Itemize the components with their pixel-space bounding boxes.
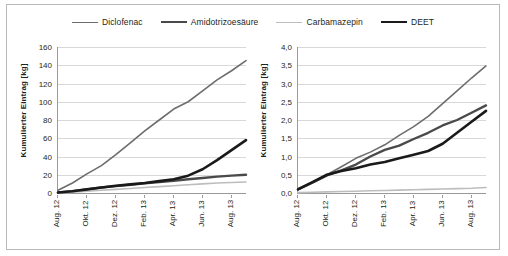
chart-panel-right: Kumulierter Eintrag [kg] 0,00,51,01,52,0… bbox=[255, 35, 495, 245]
x-tick-label-text: Aug. 12 bbox=[293, 200, 302, 228]
x-tick-label-text: Okt. 12 bbox=[321, 201, 330, 227]
x-tick-label: Okt. 12 bbox=[319, 195, 333, 241]
y-axis-ticks-left: 020406080100120140160 bbox=[29, 47, 55, 193]
y-tick-label: 1,5 bbox=[281, 134, 292, 143]
y-tick-label: 4,0 bbox=[281, 43, 292, 52]
x-tick-label-text: Aug. 13 bbox=[466, 200, 475, 228]
legend-swatch-icon bbox=[276, 22, 302, 23]
x-tick-label: Dez. 12 bbox=[108, 195, 122, 241]
series-line-diclofenac bbox=[298, 66, 486, 189]
y-tick-label: 120 bbox=[39, 79, 52, 88]
y-tick-label: 140 bbox=[39, 61, 52, 70]
y-axis-title-left-text: Kumulierter Eintrag [kg] bbox=[20, 63, 29, 157]
figure-frame: DiclofenacAmidotrizoesäureCarbamazepinDE… bbox=[6, 4, 500, 250]
legend-label: Amidotrizoesäure bbox=[191, 17, 259, 27]
legend-swatch-icon bbox=[161, 21, 187, 23]
y-tick-label: 160 bbox=[39, 43, 52, 52]
legend-item-amidotrizoesäure: Amidotrizoesäure bbox=[161, 17, 259, 27]
chart-panel-left: Kumulierter Eintrag [kg] 020406080100120… bbox=[15, 35, 255, 245]
x-tick-label: Apr. 13 bbox=[406, 195, 420, 241]
legend-label: Diclofenac bbox=[102, 17, 143, 27]
y-tick-label: 60 bbox=[43, 134, 52, 143]
x-tick-label: Apr. 13 bbox=[166, 195, 180, 241]
legend-swatch-icon bbox=[381, 21, 407, 23]
x-tick-label-text: Feb. 13 bbox=[139, 200, 148, 227]
x-tick-label-text: Dez. 12 bbox=[110, 200, 119, 228]
y-tick-label: 2,5 bbox=[281, 97, 292, 106]
legend-item-diclofenac: Diclofenac bbox=[72, 17, 143, 27]
series-line-deet bbox=[298, 111, 486, 189]
series-line-carbamazepin bbox=[298, 188, 486, 193]
x-axis-ticks-right: Aug. 12Okt. 12Dez. 12Feb. 13Apr. 13Jun. … bbox=[297, 195, 485, 243]
y-tick-label: 40 bbox=[43, 152, 52, 161]
x-tick-label: Feb. 13 bbox=[377, 195, 391, 241]
x-tick-label: Dez. 12 bbox=[348, 195, 362, 241]
x-tick-label-text: Dez. 12 bbox=[350, 200, 359, 228]
x-tick-label: Jun. 13 bbox=[195, 195, 209, 241]
x-tick-label: Aug. 13 bbox=[464, 195, 478, 241]
x-tick-label-text: Jun. 13 bbox=[197, 200, 206, 226]
x-tick-label: Feb. 13 bbox=[137, 195, 151, 241]
legend-swatch-icon bbox=[72, 22, 98, 23]
legend-label: Carbamazepin bbox=[306, 17, 362, 27]
y-tick-label: 1,0 bbox=[281, 152, 292, 161]
x-tick-label: Jun. 13 bbox=[435, 195, 449, 241]
x-tick-label: Okt. 12 bbox=[79, 195, 93, 241]
x-tick-label-text: Feb. 13 bbox=[379, 200, 388, 227]
series-line-diclofenac bbox=[58, 61, 246, 191]
x-tick-label-text: Okt. 12 bbox=[81, 201, 90, 227]
x-tick-label-text: Jun. 13 bbox=[437, 200, 446, 226]
y-axis-title-right-text: Kumulierter Eintrag [kg] bbox=[260, 63, 269, 157]
x-tick-label: Aug. 12 bbox=[50, 195, 64, 241]
x-tick-label: Aug. 13 bbox=[224, 195, 238, 241]
series-line-amidotrizoesäure bbox=[298, 105, 486, 189]
y-tick-label: 3,0 bbox=[281, 79, 292, 88]
legend-label: DEET bbox=[411, 17, 434, 27]
x-tick-label-text: Aug. 13 bbox=[226, 200, 235, 228]
legend-item-carbamazepin: Carbamazepin bbox=[276, 17, 362, 27]
x-axis-ticks-left: Aug. 12Okt. 12Dez. 12Feb. 13Apr. 13Jun. … bbox=[57, 195, 245, 243]
series-line-deet bbox=[58, 140, 246, 192]
y-tick-label: 80 bbox=[43, 116, 52, 125]
x-tick-label-text: Apr. 13 bbox=[408, 201, 417, 226]
legend-item-deet: DEET bbox=[381, 17, 434, 27]
y-axis-ticks-right: 0,00,51,01,52,02,53,03,54,0 bbox=[269, 47, 295, 193]
y-tick-label: 20 bbox=[43, 170, 52, 179]
y-tick-label: 2,0 bbox=[281, 116, 292, 125]
x-tick-label-text: Apr. 13 bbox=[168, 201, 177, 226]
y-tick-label: 0,5 bbox=[281, 170, 292, 179]
plot-area-left bbox=[57, 47, 246, 194]
x-tick-label: Aug. 12 bbox=[290, 195, 304, 241]
x-tick-label-text: Aug. 12 bbox=[53, 200, 62, 228]
chart-legend: DiclofenacAmidotrizoesäureCarbamazepinDE… bbox=[7, 11, 499, 33]
plot-area-right bbox=[297, 47, 486, 194]
y-tick-label: 3,5 bbox=[281, 61, 292, 70]
y-tick-label: 100 bbox=[39, 97, 52, 106]
